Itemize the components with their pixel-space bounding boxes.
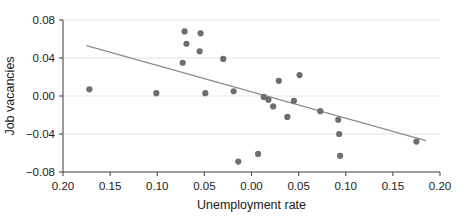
data-point	[198, 30, 204, 36]
y-axis-tick-label: 0.04	[33, 52, 56, 64]
y-axis-tick-label: 0.00	[33, 90, 55, 102]
data-point	[153, 90, 159, 96]
data-point	[336, 131, 342, 137]
x-axis-tick-label: 0.20	[52, 180, 74, 192]
data-point	[296, 72, 302, 78]
data-point	[220, 56, 226, 62]
data-point	[291, 98, 297, 104]
x-axis-tick-label: 0.15	[99, 180, 121, 192]
data-point	[197, 48, 203, 54]
scatter-chart: 0.080.040.00−0.04−0.080.200.150.100.050.…	[0, 0, 471, 216]
data-point	[317, 108, 323, 114]
data-point	[265, 97, 271, 103]
data-point	[276, 78, 282, 84]
y-axis-tick-label: −0.04	[26, 128, 56, 140]
data-point	[413, 139, 419, 145]
data-point	[335, 117, 341, 123]
x-axis-tick-label: 0.20	[429, 180, 451, 192]
x-axis-tick-label: 0.05	[287, 180, 309, 192]
data-point	[270, 103, 276, 109]
data-point	[284, 114, 290, 120]
x-axis-tick-label: 0.10	[146, 180, 168, 192]
data-point	[255, 151, 261, 157]
data-point	[235, 158, 241, 164]
x-axis-tick-label: 0.05	[193, 180, 215, 192]
chart-canvas: 0.080.040.00−0.04−0.080.200.150.100.050.…	[0, 0, 471, 216]
x-axis-tick-label: 0.10	[335, 180, 357, 192]
data-point	[180, 60, 186, 66]
data-point	[230, 88, 236, 94]
data-point	[181, 28, 187, 34]
x-axis-tick-label: 0.00	[240, 180, 262, 192]
x-axis-tick-label: 0.15	[382, 180, 404, 192]
y-axis-title: Job vacancies	[3, 56, 17, 135]
x-axis-title: Unemployment rate	[197, 198, 306, 212]
data-point	[183, 41, 189, 47]
trendline	[87, 46, 426, 141]
data-point	[337, 153, 343, 159]
y-axis-tick-label: 0.08	[33, 14, 55, 26]
y-axis-tick-label: −0.08	[26, 166, 55, 178]
data-point	[202, 90, 208, 96]
data-point	[86, 86, 92, 92]
